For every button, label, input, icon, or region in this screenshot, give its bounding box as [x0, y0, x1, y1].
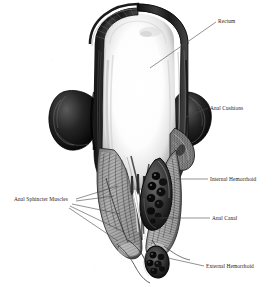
levator-bulge [49, 90, 95, 150]
label-internal-hemorrhoid: Internal Hemorrhoid [210, 176, 256, 182]
label-anal-canal: Anal Canal [212, 215, 237, 221]
label-rectum: Rectum [218, 18, 235, 24]
anorectal-illustration [0, 0, 276, 287]
label-anal-cushions: Anal Cushions [210, 105, 243, 111]
label-external-hemorrhoid: External Hemorrhoid [206, 263, 254, 269]
label-anal-sphincter-muscles: Anal Sphincter Muscles [14, 196, 68, 202]
anatomy-figure: Rectum Anal Cushions Internal Hemorrhoid… [0, 0, 276, 287]
